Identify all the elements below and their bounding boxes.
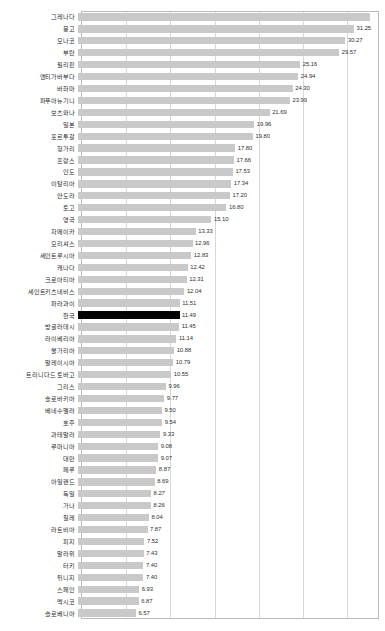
bar[interactable] xyxy=(78,478,155,485)
bar-highlighted[interactable] xyxy=(78,311,180,318)
bar[interactable] xyxy=(78,550,144,557)
bar[interactable] xyxy=(78,85,293,92)
bar[interactable] xyxy=(78,454,158,461)
value-label: 11.51 xyxy=(180,300,197,307)
bar-row: 베네수엘라9.50 xyxy=(0,404,385,416)
bar-row: 파푸아뉴기니23.99 xyxy=(0,94,385,106)
bar[interactable] xyxy=(78,133,253,140)
bar-track: 11.14 xyxy=(78,333,385,345)
value-label: 9.50 xyxy=(162,407,176,414)
bar-track: 9.96 xyxy=(78,381,385,393)
category-label: 멕시코 xyxy=(0,598,78,605)
bar-row: 트리니다드 토바고10.55 xyxy=(0,369,385,381)
bar[interactable] xyxy=(78,514,149,521)
bar[interactable] xyxy=(78,335,176,342)
bar[interactable] xyxy=(78,502,151,509)
category-label: 그레나다 xyxy=(0,13,78,20)
bar[interactable] xyxy=(78,562,143,569)
bar-track: 24.94 xyxy=(78,71,385,83)
bar[interactable] xyxy=(78,180,231,187)
bar-track: 11.45 xyxy=(78,321,385,333)
bar[interactable] xyxy=(78,252,191,259)
bar[interactable] xyxy=(78,216,211,223)
bar[interactable] xyxy=(78,574,143,581)
bar-row: 세인트루시아12.83 xyxy=(0,249,385,261)
bar[interactable] xyxy=(78,347,174,354)
category-label: 방글라데시 xyxy=(0,323,78,330)
bar[interactable] xyxy=(78,431,160,438)
bar-track: 30.27 xyxy=(78,35,385,47)
bar[interactable] xyxy=(78,61,300,68)
bar[interactable] xyxy=(78,240,193,247)
bar[interactable] xyxy=(78,37,345,44)
bar-row: 헝가리17.80 xyxy=(0,142,385,154)
bar[interactable] xyxy=(78,13,370,20)
bar[interactable] xyxy=(78,609,136,616)
bar[interactable] xyxy=(78,25,354,32)
bar-row: 캐나다12.42 xyxy=(0,261,385,273)
bar[interactable] xyxy=(78,490,151,497)
bar-track: 6.87 xyxy=(78,595,385,607)
bar[interactable] xyxy=(78,228,196,235)
bar[interactable] xyxy=(78,443,158,450)
category-label: 과테말라 xyxy=(0,431,78,438)
category-label: 슬로바키아 xyxy=(0,395,78,402)
category-label: 안도라 xyxy=(0,192,78,199)
bar[interactable] xyxy=(78,371,171,378)
bar-row: 프랑스17.66 xyxy=(0,154,385,166)
bar[interactable] xyxy=(78,192,230,199)
bar[interactable] xyxy=(78,407,162,414)
value-label: 19.80 xyxy=(253,133,270,140)
bar-row: 안도라17.20 xyxy=(0,190,385,202)
bar-row: 토고16.80 xyxy=(0,202,385,214)
bar[interactable] xyxy=(78,526,148,533)
bar[interactable] xyxy=(78,168,233,175)
bar[interactable] xyxy=(78,288,184,295)
category-label: 파라과이 xyxy=(0,300,78,307)
bar[interactable] xyxy=(78,121,254,128)
bar[interactable] xyxy=(78,156,234,163)
category-label: 칠레 xyxy=(0,514,78,521)
bar[interactable] xyxy=(78,597,139,604)
bar[interactable] xyxy=(78,586,139,593)
value-label: 7.43 xyxy=(144,550,158,557)
bar[interactable] xyxy=(78,49,339,56)
value-label: 12.42 xyxy=(188,264,205,271)
bar-row: 불가리아10.88 xyxy=(0,345,385,357)
bar[interactable] xyxy=(78,144,235,151)
bar[interactable] xyxy=(78,359,173,366)
bar-track: 15.10 xyxy=(78,214,385,226)
category-label: 라트비아 xyxy=(0,526,78,533)
value-label: 17.20 xyxy=(230,192,247,199)
value-label: 17.53 xyxy=(233,168,250,175)
bar[interactable] xyxy=(78,264,188,271)
bar-row: 한국11.49 xyxy=(0,309,385,321)
bar-track: 9.33 xyxy=(78,428,385,440)
bar-row: 몽고31.25 xyxy=(0,23,385,35)
value-label: 12.04 xyxy=(184,288,201,295)
bar[interactable] xyxy=(78,466,156,473)
category-label: 자메이카 xyxy=(0,228,78,235)
category-label: 헝가리 xyxy=(0,145,78,152)
bar[interactable] xyxy=(78,419,162,426)
category-label: 루마니아 xyxy=(0,443,78,450)
bar[interactable] xyxy=(78,538,144,545)
bar-track: 9.07 xyxy=(78,452,385,464)
value-label: 10.79 xyxy=(173,359,190,366)
bar[interactable] xyxy=(78,97,290,104)
bar[interactable] xyxy=(78,276,187,283)
bar[interactable] xyxy=(78,109,270,116)
category-label: 일본 xyxy=(0,121,78,128)
bar[interactable] xyxy=(78,204,226,211)
category-label: 터키 xyxy=(0,562,78,569)
bar[interactable] xyxy=(78,383,166,390)
bar-row: 과테말라9.33 xyxy=(0,428,385,440)
bar[interactable] xyxy=(78,299,180,306)
value-label: 9.77 xyxy=(164,395,178,402)
bar-track: 8.87 xyxy=(78,464,385,476)
bar[interactable] xyxy=(78,323,179,330)
bar[interactable] xyxy=(78,73,298,80)
bar[interactable] xyxy=(78,395,164,402)
bar-track: 12.96 xyxy=(78,238,385,250)
category-label: 토고 xyxy=(0,204,78,211)
